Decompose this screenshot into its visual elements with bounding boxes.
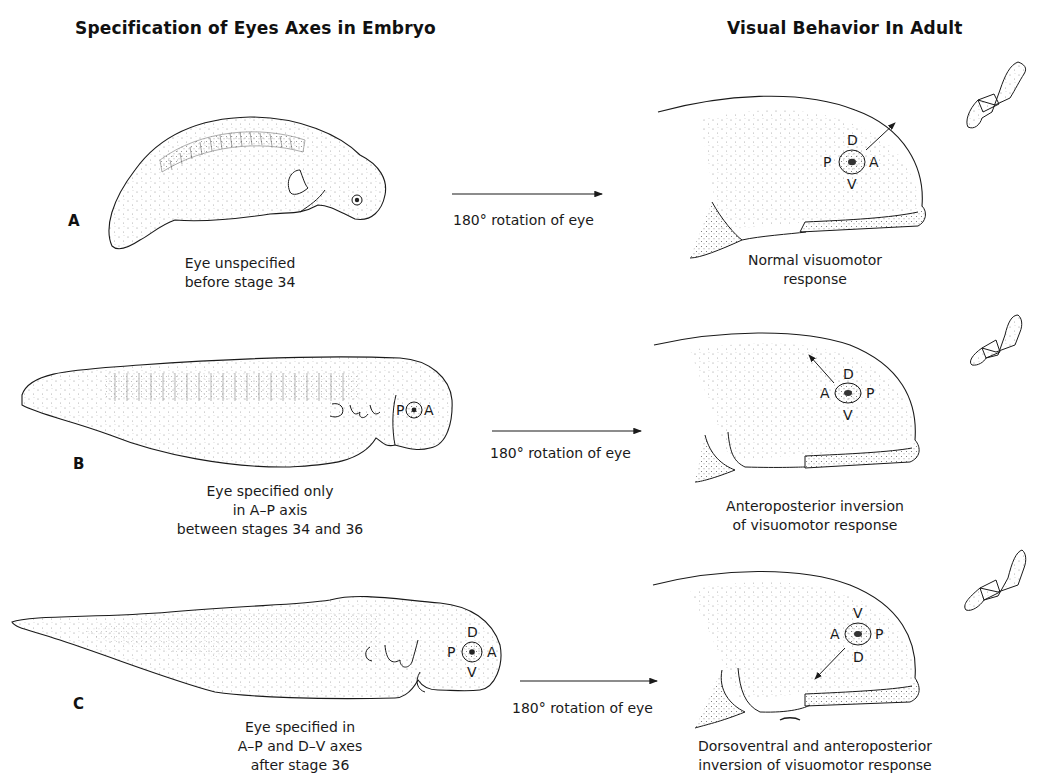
row-label-a: A: [68, 212, 80, 230]
adult-caption-b-line-1: Anteroposterior inversion: [705, 497, 925, 516]
embryo-a-drawing: [109, 117, 386, 249]
prey-worm-c-drawing: [965, 550, 1026, 610]
embryo-b-axis-right: A: [424, 402, 434, 418]
embryo-caption-a-line-2: before stage 34: [155, 273, 325, 292]
adult-caption-c-line-1: Dorsoventral and anteroposterior: [670, 737, 960, 756]
prey-worm-a-drawing: [967, 62, 1026, 128]
adult-c-axis-right: P: [875, 626, 883, 642]
rotation-label-b: 180° rotation of eye: [490, 445, 631, 461]
adult-c-axis-top: V: [853, 605, 863, 621]
adult-a-axis-left: P: [823, 154, 831, 170]
embryo-caption-c-line-3: after stage 36: [220, 756, 380, 775]
adult-caption-a-line-1: Normal visuomotor: [730, 251, 900, 270]
embryo-caption-c-line-2: A–P and D–V axes: [220, 737, 380, 756]
embryo-c-axis-left: P: [447, 644, 455, 660]
adult-caption-c-line-2: inversion of visuomotor response: [670, 756, 960, 775]
adult-c-axis-left: A: [830, 626, 840, 642]
embryo-c-axis-right: A: [487, 644, 497, 660]
embryo-caption-b-line-2: in A–P axis: [150, 501, 390, 520]
adult-b-axis-top: D: [843, 366, 854, 382]
adult-c-drawing: V A P D: [653, 571, 919, 728]
rotation-label-a: 180° rotation of eye: [453, 212, 594, 228]
embryo-c-drawing: D P A V: [12, 597, 501, 699]
adult-a-axis-right: A: [869, 154, 879, 170]
embryo-caption-a: Eye unspecified before stage 34: [155, 254, 325, 292]
embryo-caption-c: Eye specified in A–P and D–V axes after …: [220, 718, 380, 775]
adult-caption-b-line-2: of visuomotor response: [705, 516, 925, 535]
adult-caption-a: Normal visuomotor response: [730, 251, 900, 289]
adult-c-axis-bottom: D: [853, 649, 864, 665]
adult-caption-b: Anteroposterior inversion of visuomotor …: [705, 497, 925, 535]
diagram-artwork: D P A V P A: [0, 0, 1038, 783]
row-label-b: B: [73, 455, 84, 473]
embryo-caption-b: Eye specified only in A–P axis between s…: [150, 482, 390, 539]
embryo-c-axis-bottom: V: [467, 664, 477, 680]
embryo-caption-a-line-1: Eye unspecified: [155, 254, 325, 273]
adult-b-axis-right: P: [866, 385, 874, 401]
adult-b-drawing: D A P V: [654, 333, 919, 482]
embryo-b-axis-left: P: [396, 402, 404, 418]
rotation-label-c: 180° rotation of eye: [512, 700, 653, 716]
embryo-b-drawing: P A: [22, 357, 452, 467]
embryo-caption-b-line-1: Eye specified only: [150, 482, 390, 501]
embryo-caption-b-line-3: between stages 34 and 36: [150, 520, 390, 539]
adult-caption-a-line-2: response: [730, 270, 900, 289]
adult-a-axis-bottom: V: [847, 176, 857, 192]
adult-a-drawing: D P A V: [658, 96, 925, 258]
row-label-c: C: [73, 695, 84, 713]
adult-a-axis-top: D: [847, 132, 858, 148]
adult-b-axis-left: A: [820, 385, 830, 401]
embryo-caption-c-line-1: Eye specified in: [220, 718, 380, 737]
embryo-c-axis-top: D: [467, 624, 478, 640]
prey-worm-b-drawing: [970, 315, 1021, 365]
adult-caption-c: Dorsoventral and anteroposterior inversi…: [670, 737, 960, 775]
adult-b-axis-bottom: V: [843, 407, 853, 423]
